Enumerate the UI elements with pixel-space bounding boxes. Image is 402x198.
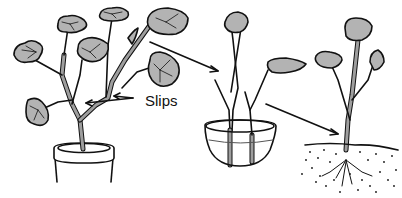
rooted-plant-in-soil	[301, 18, 398, 193]
slips-label: Slips	[145, 92, 178, 109]
water-bowl-with-slips	[205, 12, 306, 166]
slips-propagation-illustration	[0, 0, 402, 198]
